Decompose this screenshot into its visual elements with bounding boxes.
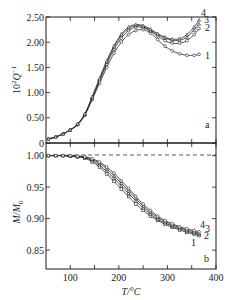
data-marker: [178, 37, 181, 40]
data-marker: [185, 227, 188, 230]
data-marker: [164, 36, 167, 39]
data-marker: [156, 32, 159, 35]
data-marker: [113, 52, 116, 55]
data-marker: [171, 49, 174, 52]
y-tick-label: 1.50: [27, 62, 45, 73]
data-marker: [127, 195, 130, 198]
data-marker: [156, 215, 159, 218]
data-marker: [120, 179, 123, 182]
data-marker: [171, 42, 174, 45]
data-marker: [76, 155, 79, 158]
curve-4: [48, 156, 199, 232]
data-marker: [185, 54, 188, 57]
data-marker: [149, 209, 152, 212]
y-tick-label: 0.85: [27, 245, 45, 256]
curve-4: [48, 20, 199, 139]
panel-b-magnetization: 0.850.900.951.00 100200300400 1234 b M/M…: [11, 143, 224, 297]
data-marker: [127, 25, 130, 28]
data-marker: [198, 22, 201, 25]
data-marker: [198, 53, 201, 56]
data-marker: [164, 45, 167, 48]
x-tick-label: 300: [160, 272, 175, 283]
data-marker: [198, 18, 201, 21]
x-tick-label: 200: [111, 272, 126, 283]
y-tick-label: 0: [39, 138, 44, 149]
x-tick-label: 100: [63, 272, 78, 283]
panel-b-frame: [46, 143, 216, 269]
data-marker: [193, 33, 196, 36]
chart-figure: 00.501.001.502.002.50 1234 a 102Q−1 0.85…: [0, 0, 234, 300]
data-marker: [164, 219, 167, 222]
data-marker: [164, 39, 167, 42]
data-marker: [198, 27, 201, 30]
panel-a-label: a: [205, 119, 210, 130]
data-marker: [142, 203, 145, 206]
panel-a-internal-friction: 00.501.001.502.002.50 1234 a 102Q−1: [10, 7, 216, 148]
data-marker: [113, 180, 116, 183]
data-marker: [105, 166, 108, 169]
x-tick-label: 400: [209, 272, 224, 283]
data-marker: [134, 195, 137, 198]
y-tick-label: 0.90: [27, 213, 45, 224]
y-tick-label: 0.50: [27, 112, 45, 123]
data-marker: [178, 225, 181, 228]
data-marker: [149, 27, 152, 30]
curve-2: [48, 27, 199, 139]
data-marker: [83, 155, 86, 158]
panel-b-y-axis-title: M/M0: [11, 200, 25, 224]
data-marker: [127, 33, 130, 36]
curve-1: [48, 29, 199, 139]
y-tick-label: 1.00: [27, 87, 45, 98]
data-marker: [54, 154, 57, 157]
data-marker: [142, 209, 145, 212]
data-marker: [105, 173, 108, 176]
data-marker: [178, 52, 181, 55]
panel-a-y-axis-title: 102Q−1: [10, 65, 22, 94]
curve-3: [48, 24, 199, 139]
curve-label-4: 4: [201, 7, 206, 18]
curve-3: [48, 156, 199, 234]
curve-2: [48, 156, 199, 235]
y-tick-label: 2.50: [27, 12, 45, 23]
panel-a-frame: [46, 17, 216, 143]
data-marker: [62, 154, 65, 157]
data-marker: [185, 39, 188, 42]
data-marker: [120, 41, 123, 44]
y-tick-label: 2.00: [27, 37, 45, 48]
panel-a-curves: [47, 18, 201, 140]
data-marker: [47, 154, 50, 157]
panel-b-label: b: [204, 253, 209, 264]
data-marker: [178, 42, 181, 45]
data-marker: [193, 54, 196, 57]
data-marker: [127, 187, 130, 190]
data-marker: [198, 230, 201, 233]
data-marker: [134, 29, 137, 32]
panel-b-x-ticks: 100200300400: [63, 143, 224, 283]
x-axis-title: T/°C: [121, 286, 140, 297]
data-marker: [69, 154, 72, 157]
panel-b-y-ticks: 0.850.900.951.00: [27, 150, 217, 256]
data-marker: [113, 172, 116, 175]
data-marker: [98, 161, 101, 164]
panel-a-curve-labels: 1234: [201, 7, 210, 61]
data-marker: [193, 229, 196, 232]
y-tick-label: 0.95: [27, 182, 45, 193]
data-marker: [156, 38, 159, 41]
data-marker: [142, 24, 145, 27]
y-tick-label: 1.00: [27, 150, 45, 161]
data-marker: [171, 38, 174, 41]
data-marker: [120, 188, 123, 191]
data-marker: [135, 203, 138, 206]
curve-label-1: 1: [191, 237, 196, 248]
curve-label-3: 3: [205, 223, 210, 234]
data-marker: [171, 222, 174, 225]
data-marker: [91, 157, 94, 160]
data-marker: [134, 23, 137, 26]
curve-1: [48, 156, 199, 236]
panel-b-curves: [47, 154, 201, 237]
curve-label-1: 1: [205, 50, 210, 61]
curve-label-4: 4: [200, 219, 205, 230]
